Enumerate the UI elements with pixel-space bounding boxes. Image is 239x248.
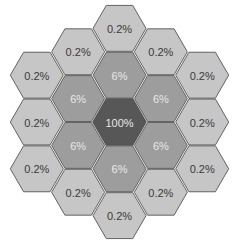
- hex-label: 0.2%: [190, 163, 215, 175]
- hex-label: 0.2%: [190, 117, 215, 129]
- hex-cell-outer: 0.2%: [176, 99, 229, 145]
- hex-label: 0.2%: [148, 187, 173, 199]
- hex-cell-center: 100%: [93, 99, 146, 145]
- hex-label: 6%: [70, 140, 86, 152]
- hex-label: 6%: [112, 70, 128, 82]
- hex-label: 0.2%: [148, 46, 173, 58]
- hex-label: 0.2%: [24, 117, 49, 129]
- hex-label: 0.2%: [190, 70, 215, 82]
- hex-label: 0.2%: [66, 46, 91, 58]
- hex-cell-outer: 0.2%: [52, 29, 105, 75]
- hex-cell-outer: 0.2%: [10, 146, 63, 192]
- hex-label: 0.2%: [24, 163, 49, 175]
- hex-cell-outer: 0.2%: [10, 99, 63, 145]
- hex-label: 6%: [70, 93, 86, 105]
- hex-label: 6%: [153, 140, 169, 152]
- hex-cell-outer: 0.2%: [134, 29, 187, 75]
- hex-label: 6%: [153, 93, 169, 105]
- hex-cell-outer: 0.2%: [93, 193, 146, 239]
- hex-label: 100%: [105, 117, 133, 129]
- hex-label: 0.2%: [107, 210, 132, 222]
- hex-label: 0.2%: [66, 187, 91, 199]
- hex-cell-outer: 0.2%: [176, 52, 229, 98]
- hex-cell-middle: 6%: [93, 52, 146, 98]
- hex-cell-outer: 0.2%: [93, 5, 146, 51]
- hex-cell-outer: 0.2%: [176, 146, 229, 192]
- hex-cell-outer: 0.2%: [134, 169, 187, 215]
- hex-cell-outer: 0.2%: [52, 169, 105, 215]
- hex-diagram: 0.2%0.2%0.2%0.2%6%0.2%6%6%0.2%100%0.2%6%…: [0, 0, 239, 248]
- hex-label: 0.2%: [107, 23, 132, 35]
- hex-label: 6%: [112, 163, 128, 175]
- hex-cell-outer: 0.2%: [10, 52, 63, 98]
- hex-cell-middle: 6%: [93, 146, 146, 192]
- hex-label: 0.2%: [24, 70, 49, 82]
